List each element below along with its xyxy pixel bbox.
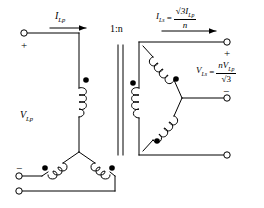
secondary-voltage-numerator-sub: Lp [228, 66, 234, 72]
secondary-current-numerator-main: √3I [176, 6, 188, 16]
terminal-primary-top [21, 30, 27, 36]
secondary-current-denominator: n [174, 20, 197, 31]
polarity-dot-secondary-c [154, 138, 160, 144]
primary-coil-b [48, 163, 67, 179]
terminal-secondary-bottom [224, 152, 230, 158]
secondary-current-fraction: √3ILp n [174, 6, 197, 30]
wye-center-to-right [79, 152, 95, 163]
delta-lower-diag-b [143, 140, 153, 151]
secondary-minus-sign: − [223, 86, 229, 97]
secondary-coil-b [149, 57, 174, 84]
secondary-current-equals: = [165, 14, 174, 23]
wye-right-lead [110, 172, 115, 176]
polarity-dot-secondary-a [130, 80, 136, 86]
secondary-coil-a [132, 88, 139, 119]
secondary-current-numerator: √3ILp [174, 6, 197, 20]
primary-plus-sign: + [21, 40, 27, 51]
delta-upper-diag-b [174, 80, 182, 98]
circuit-svg [0, 0, 264, 208]
primary-voltage-label: VLp [20, 110, 33, 123]
primary-current-label: ILp [55, 11, 65, 24]
secondary-current-arrowhead [209, 28, 216, 33]
polarity-dot-secondary-b [173, 76, 179, 82]
wye-left-lead [42, 172, 48, 176]
transformer-diagram: 1:n ILp VLp + − ILs= √3ILp n VLs= nVLp √… [0, 0, 264, 208]
delta-lower-diag-a [174, 98, 182, 116]
secondary-voltage-denominator: √3 [216, 74, 236, 85]
secondary-current-equation: ILs= √3ILp n [156, 6, 196, 30]
polarity-dot-primary-b [42, 165, 48, 171]
secondary-voltage-lhs: VLs [196, 66, 207, 78]
primary-coil-a [79, 88, 86, 117]
secondary-voltage-equation: VLs= nVLp √3 [196, 60, 236, 84]
secondary-voltage-numerator: nVLp [216, 60, 236, 74]
polarity-dot-primary-c [109, 165, 115, 171]
primary-current-subscript: Lp [58, 16, 65, 23]
secondary-voltage-numerator-main: nV [218, 60, 228, 70]
terminal-secondary-top [224, 39, 230, 45]
primary-current-arrowhead [79, 25, 86, 30]
terminal-primary-bottom [16, 188, 22, 194]
delta-upper-diag-a [143, 46, 153, 57]
turns-ratio-label: 1:n [110, 24, 123, 34]
secondary-voltage-fraction: nVLp √3 [216, 60, 236, 84]
primary-coil-c [91, 163, 110, 179]
secondary-current-numerator-sub: Lp [188, 12, 194, 18]
wye-center-to-left [63, 152, 79, 163]
secondary-voltage-equals: = [207, 68, 216, 77]
primary-voltage-subscript: Lp [26, 115, 33, 122]
secondary-current-lhs: ILs [156, 12, 165, 24]
primary-minus-sign: − [16, 163, 22, 174]
polarity-dot-primary-a [83, 77, 89, 83]
secondary-plus-sign: + [224, 48, 230, 59]
